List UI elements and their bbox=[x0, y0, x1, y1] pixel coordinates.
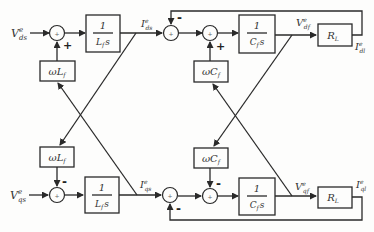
wcf-coupling-block-d: ωCf bbox=[194, 61, 228, 82]
cf-integrator-block-q: 1 Cfs bbox=[239, 178, 275, 215]
sign-plus: + bbox=[216, 40, 225, 53]
idl-signal-label: Iedl bbox=[354, 40, 365, 54]
wcf-coupling-block-q: ωCf bbox=[194, 148, 228, 168]
iqs-signal-label: Ieqs bbox=[139, 178, 151, 193]
cross-coupling-lines bbox=[58, 33, 292, 196]
sign-plus: + bbox=[63, 39, 72, 52]
sign-minus: - bbox=[62, 175, 67, 189]
wlf-coupling-block-d: ωLf bbox=[40, 61, 75, 81]
sign-minus: - bbox=[176, 202, 181, 216]
ids-signal-label: Ieds bbox=[140, 17, 152, 31]
sum-junction-q1: + bbox=[50, 188, 65, 203]
sign-minus: - bbox=[177, 11, 182, 25]
vqf-signal-label: Veqf bbox=[295, 180, 311, 195]
sum-junction-d3: + bbox=[203, 26, 218, 41]
svg-text:+: + bbox=[207, 193, 212, 200]
load-resistor-block-d: RL bbox=[318, 24, 352, 46]
svg-text:1: 1 bbox=[99, 182, 105, 193]
vds-input-label: Veds bbox=[11, 26, 28, 42]
sign-minus: - bbox=[216, 177, 221, 191]
svg-text:+: + bbox=[167, 192, 172, 199]
svg-text:1: 1 bbox=[254, 20, 260, 31]
lf-integrator-block-q: 1 Lfs bbox=[85, 177, 119, 213]
svg-text:+: + bbox=[207, 30, 212, 37]
svg-text:+: + bbox=[168, 30, 173, 37]
iql-signal-label: Ieql bbox=[355, 178, 366, 193]
lf-integrator-block-d: 1 Lfs bbox=[86, 15, 120, 52]
d-axis-path: Veds + + 1 Lfs Ieds + - + + bbox=[11, 11, 365, 82]
q-axis-path: Veqs + - 1 Lfs Ieqs + - + - 1 bbox=[10, 147, 366, 220]
vdf-signal-label: Vedf bbox=[296, 16, 312, 31]
wlf-coupling-block-q: ωLf bbox=[40, 147, 74, 167]
vqs-input-label: Veqs bbox=[10, 188, 27, 204]
sum-junction-d2: + bbox=[164, 26, 179, 41]
block-diagram: Veds + + 1 Lfs Ieds + - + + bbox=[0, 0, 374, 232]
svg-text:+: + bbox=[54, 30, 59, 37]
cf-integrator-block-d: 1 Cfs bbox=[239, 15, 275, 53]
svg-text:1: 1 bbox=[100, 20, 106, 31]
load-resistor-block-q: RL bbox=[318, 187, 352, 208]
sum-junction-q2: + bbox=[163, 188, 178, 203]
svg-text:+: + bbox=[54, 192, 59, 199]
svg-text:1: 1 bbox=[254, 183, 260, 194]
